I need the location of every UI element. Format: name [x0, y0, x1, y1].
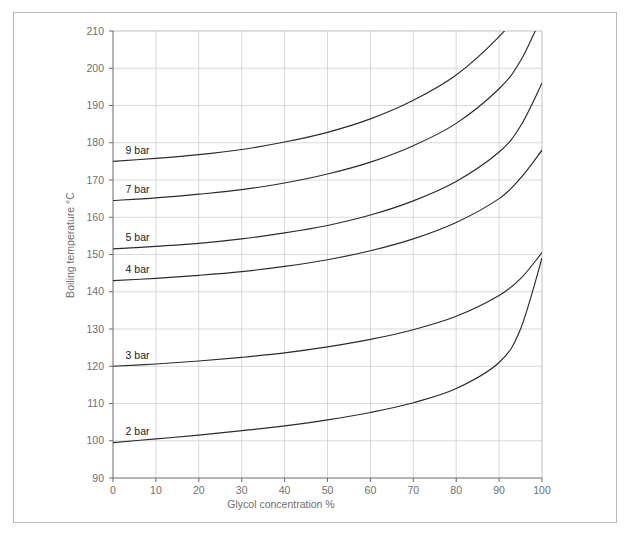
y-tick-label: 100 [86, 434, 104, 446]
boiling-temperature-chart: 9010011012013014015016017018019020021001… [0, 0, 632, 549]
x-axis-title: Glycol concentration % [227, 498, 334, 510]
x-tick-label: 40 [279, 484, 291, 496]
y-tick-label: 180 [86, 136, 104, 148]
curve-label-2-bar: 2 bar [126, 425, 150, 437]
y-tick-label: 170 [86, 174, 104, 186]
curve-label-5-bar: 5 bar [126, 231, 150, 243]
x-tick-label: 50 [322, 484, 334, 496]
y-tick-label: 150 [86, 248, 104, 260]
curve-label-9-bar: 9 bar [126, 144, 150, 156]
y-tick-label: 120 [86, 360, 104, 372]
x-tick-label: 0 [110, 484, 116, 496]
y-tick-label: 110 [87, 397, 104, 409]
x-tick-label: 80 [450, 484, 462, 496]
curve-label-layer: 2 bar3 bar4 bar5 bar7 bar9 bar [126, 144, 150, 437]
y-tick-label: 160 [86, 211, 104, 223]
x-tick-label: 30 [236, 484, 248, 496]
y-tick-label: 90 [92, 472, 104, 484]
chart-svg: 9010011012013014015016017018019020021001… [0, 0, 632, 549]
x-tick-label: 60 [365, 484, 377, 496]
x-tick-label: 100 [533, 484, 551, 496]
y-tick-label: 200 [86, 62, 104, 74]
x-tick-label: 90 [493, 484, 505, 496]
curve-label-7-bar: 7 bar [126, 183, 150, 195]
y-tick-label: 190 [86, 99, 104, 111]
y-tick-label: 130 [86, 323, 104, 335]
x-tick-label: 10 [150, 484, 162, 496]
y-axis-title: Boiling temperature °C [64, 192, 76, 298]
curve-label-4-bar: 4 bar [126, 263, 150, 275]
axes-layer [109, 31, 542, 482]
y-tick-label: 210 [86, 25, 104, 37]
x-tick-label: 70 [407, 484, 419, 496]
y-tick-label: 140 [86, 285, 104, 297]
x-tick-label: 20 [193, 484, 205, 496]
axis-title-layer: Glycol concentration % Boiling temperatu… [64, 192, 335, 510]
curve-label-3-bar: 3 bar [126, 349, 150, 361]
grid-layer [113, 31, 542, 478]
chart-page: 9010011012013014015016017018019020021001… [0, 0, 632, 549]
